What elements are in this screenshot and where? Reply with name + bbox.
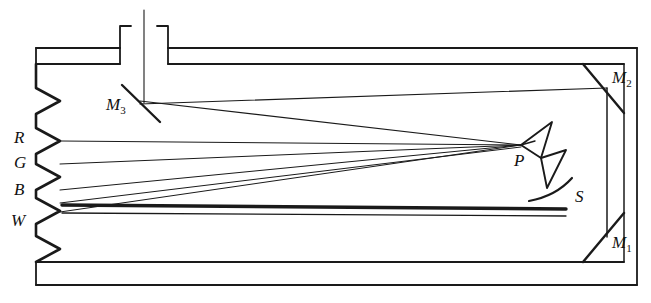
label-aperture-red: R xyxy=(14,129,24,146)
ray-m3-to-m2 xyxy=(140,88,607,104)
figure-canvas: R G B W M3 M2 M1 P S xyxy=(0,0,651,303)
chimney-right-wall xyxy=(157,26,168,48)
label-mirror-m2: M2 xyxy=(612,69,632,89)
label-aperture-white: W xyxy=(11,212,25,229)
prism-upper-triangle xyxy=(521,122,552,158)
label-prism: P xyxy=(514,152,524,169)
ray-red xyxy=(60,141,521,145)
label-mirror-m3-letter: M xyxy=(106,95,120,114)
label-mirror-m1-letter: M xyxy=(612,233,626,252)
ray-blue xyxy=(60,145,521,190)
chimney-left-wall xyxy=(120,26,131,48)
prism-lower-triangle xyxy=(541,150,566,188)
label-mirror-m1-subscript: 1 xyxy=(626,242,632,254)
label-mirror-m3: M3 xyxy=(106,96,126,116)
label-mirror-m3-subscript: 3 xyxy=(120,104,126,116)
optical-diagram-svg xyxy=(0,0,651,303)
label-mirror-m1: M1 xyxy=(612,234,632,254)
label-mirror-s: S xyxy=(575,188,584,205)
slit-aperture-bar xyxy=(62,205,566,209)
label-aperture-blue: B xyxy=(14,181,24,198)
serrated-left-wall xyxy=(36,64,60,262)
label-aperture-green: G xyxy=(14,154,26,171)
ray-green xyxy=(60,145,521,164)
slit-lower-edge xyxy=(62,213,566,216)
label-mirror-m2-subscript: 2 xyxy=(626,77,632,89)
label-mirror-m2-letter: M xyxy=(612,68,626,87)
ray-auxiliary xyxy=(60,147,521,203)
ray-m3-to-prism xyxy=(140,101,521,145)
